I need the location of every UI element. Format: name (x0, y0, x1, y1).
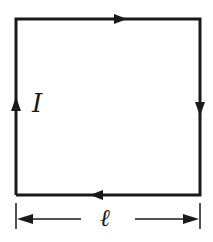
current-label: I (32, 88, 42, 118)
arrow-left-up-icon (11, 97, 21, 111)
arrow-bottom-left-icon (90, 190, 103, 200)
arrow-top-right-icon (114, 14, 127, 24)
side-length-label: ℓ (100, 204, 110, 232)
arrow-right-down-icon (195, 102, 205, 116)
dimension-arrow-right-icon (183, 214, 199, 224)
square-loop (16, 19, 200, 195)
dimension-arrow-left-icon (17, 214, 33, 224)
